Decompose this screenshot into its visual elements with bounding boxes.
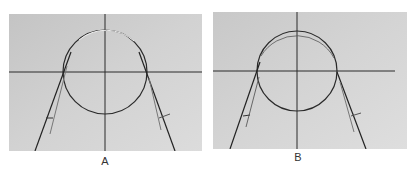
panel-a (9, 14, 202, 151)
panel-b-label: B (288, 151, 308, 163)
panel-b-photo (213, 12, 407, 149)
panel-b (213, 12, 407, 149)
panel-a-label: A (95, 155, 115, 167)
panel-a-photo (9, 14, 202, 151)
